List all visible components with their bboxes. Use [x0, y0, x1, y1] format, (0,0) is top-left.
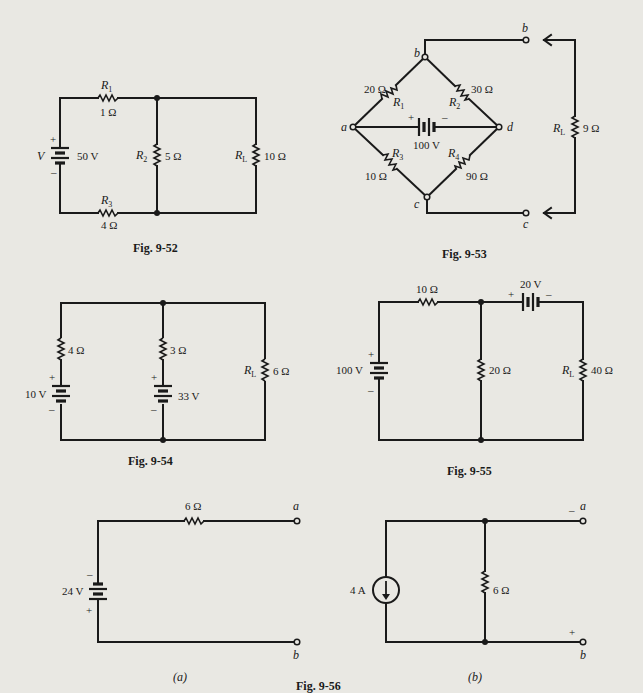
fig52-r2-value: 5 Ω: [165, 150, 181, 162]
fig56b-terminal-b[interactable]: [580, 639, 586, 645]
fig52-battery-icon: [51, 148, 69, 163]
fig53-plus-sign: +: [408, 111, 414, 123]
fig53-r2-resistor-icon: [455, 85, 469, 100]
figure-9-52: + – V 50 V R1 1 Ω R3 4 Ω R2 5 Ω RL 10 Ω …: [37, 78, 286, 255]
fig56b-sign-a: –: [568, 504, 575, 516]
fig52-plus-sign: +: [50, 133, 56, 145]
fig56a-part-label: (a): [173, 670, 187, 684]
fig56-caption: Fig. 9-56: [296, 679, 341, 693]
fig52-source-label: V: [37, 149, 46, 163]
fig52-rl-resistor-icon: [253, 144, 259, 166]
figure-9-55: 10 Ω 20 V + – + – 100 V 20 Ω RL 40 Ω Fig…: [336, 278, 613, 478]
fig53-wires: [353, 40, 575, 213]
fig53-rl-value: 9 Ω: [583, 122, 599, 134]
fig53-battery-icon: [419, 118, 434, 136]
fig52-rl-value: 10 Ω: [264, 150, 286, 162]
fig53-caption: Fig. 9-53: [442, 247, 487, 261]
fig56a-resistor-icon: [184, 518, 204, 524]
fig52-r1-resistor-icon: [98, 95, 118, 101]
fig54-node-top: [160, 300, 166, 306]
fig55-r-series-resistor-icon: [418, 299, 438, 305]
fig52-r2-resistor-icon: [154, 144, 160, 166]
fig56b-node-top: [482, 518, 488, 524]
fig56b-terminal-b-label: b: [580, 648, 586, 662]
fig53-r3-name: R3: [391, 146, 403, 162]
fig55-source1-value: 100 V: [336, 364, 363, 376]
fig54-node-bottom: [160, 437, 166, 443]
fig55-plus2: +: [508, 288, 514, 300]
fig56b-node-bottom: [482, 639, 488, 645]
fig52-rl-name: RL: [234, 148, 247, 164]
fig56b-part-label: (b): [468, 670, 482, 684]
fig56b-current-value: 4 A: [350, 584, 366, 596]
fig52-r1-value: 1 Ω: [100, 106, 116, 118]
fig53-r2-name: R2: [448, 95, 460, 111]
fig54-plus2: +: [151, 371, 157, 383]
fig56a-battery-icon: [89, 584, 107, 599]
fig54-source2-value: 33 V: [178, 390, 200, 402]
fig53-node-b: [422, 54, 428, 60]
fig56b-resistor-icon: [482, 571, 488, 593]
fig56a-resistor-value: 6 Ω: [185, 500, 201, 512]
figure-9-53: a b c d b c 20 Ω R1 30 Ω R2 R3 10 Ω R4 9…: [341, 21, 599, 261]
fig56a-terminal-b-label: b: [293, 648, 299, 662]
fig53-minus-sign: –: [441, 111, 448, 123]
fig53-terminal-b[interactable]: [523, 37, 529, 43]
fig52-minus-sign: –: [50, 166, 57, 178]
fig53-r3-value: 10 Ω: [365, 170, 387, 182]
fig53-source-value: 100 V: [413, 139, 440, 151]
fig53-r1-value: 20 Ω: [364, 83, 386, 95]
fig56a-minus: –: [86, 568, 93, 580]
fig55-minus1: –: [367, 384, 374, 396]
fig56b-terminal-a[interactable]: [580, 518, 586, 524]
fig55-r-series-value: 10 Ω: [416, 283, 438, 295]
fig56b-sign-b: +: [569, 626, 575, 638]
fig53-node-b-label: b: [414, 46, 420, 60]
fig53-node-a: [350, 124, 356, 130]
fig56a-terminal-b[interactable]: [294, 639, 300, 645]
fig55-rl-name: RL: [561, 363, 574, 379]
fig52-r3-value: 4 Ω: [101, 219, 117, 231]
fig54-r-left-value: 4 Ω: [68, 344, 84, 356]
fig53-r2-value: 30 Ω: [471, 83, 493, 95]
fig53-rl-resistor-icon: [572, 116, 578, 138]
fig54-r-mid-value: 3 Ω: [170, 344, 186, 356]
fig56a-terminal-a[interactable]: [294, 518, 300, 524]
fig52-r2-name: R2: [135, 148, 147, 164]
fig55-node-top: [478, 299, 484, 305]
fig53-r1-name: R1: [392, 95, 404, 111]
fig56b-circuit: 4 A 6 Ω – a + b (b): [350, 499, 586, 684]
fig56b-terminal-a-label: a: [580, 499, 586, 513]
fig56a-source-value: 24 V: [62, 585, 84, 597]
fig54-minus1: –: [48, 403, 55, 415]
figure-9-56: 6 Ω a b – + 24 V (a) 4 A 6 Ω: [62, 499, 586, 693]
fig53-node-a-label: a: [341, 120, 347, 134]
fig56b-resistor-value: 6 Ω: [493, 584, 509, 596]
fig56b-current-source-icon: [373, 577, 399, 603]
fig52-caption: Fig. 9-52: [133, 241, 178, 255]
fig53-terminal-c[interactable]: [523, 210, 529, 216]
fig54-rl-name: RL: [243, 363, 256, 379]
fig55-caption: Fig. 9-55: [447, 464, 492, 478]
fig56a-circuit: 6 Ω a b – + 24 V (a): [62, 499, 300, 684]
fig53-r4-name: R4: [447, 146, 459, 162]
fig55-r-shunt-resistor-icon: [478, 359, 484, 381]
fig55-source2-value: 20 V: [520, 278, 542, 290]
fig53-node-c-label: c: [414, 197, 420, 211]
fig55-plus1: +: [368, 348, 374, 360]
fig54-plus1: +: [49, 371, 55, 383]
fig54-minus2: –: [150, 403, 157, 415]
fig53-rl-name: RL: [552, 121, 565, 137]
fig56a-terminal-a-label: a: [293, 499, 299, 513]
fig54-caption: Fig. 9-54: [128, 454, 173, 468]
fig52-source-value: 50 V: [77, 150, 99, 162]
fig54-rl-value: 6 Ω: [273, 365, 289, 377]
fig55-rl-resistor-icon: [580, 359, 586, 381]
fig53-terminal-b-label: b: [522, 21, 528, 35]
figure-9-54: 4 Ω 3 Ω + – 10 V + – 33 V RL 6 Ω Fig. 9-…: [25, 300, 289, 468]
fig54-source1-value: 10 V: [25, 388, 47, 400]
fig53-node-d-label: d: [507, 120, 514, 134]
fig52-node-bottom: [154, 210, 160, 216]
fig52-r1-name: R1: [100, 78, 112, 94]
fig52-node-top: [154, 95, 160, 101]
